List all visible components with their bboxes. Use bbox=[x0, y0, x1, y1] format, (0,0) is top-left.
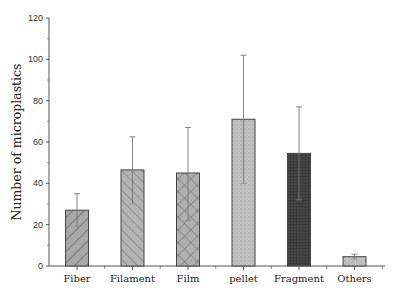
y-tick-label: 60 bbox=[33, 137, 43, 147]
x-axis: FiberFilamentFilmpelletFragmentOthers bbox=[49, 266, 385, 284]
y-tick-label: 40 bbox=[33, 178, 43, 188]
bar-others bbox=[343, 254, 366, 266]
y-tick-label: 0 bbox=[38, 261, 43, 271]
bar-fragment bbox=[288, 107, 311, 266]
y-axis: 020406080100120 bbox=[28, 13, 49, 271]
bar-film bbox=[177, 128, 200, 266]
bar-filament bbox=[121, 137, 144, 266]
x-category-label: Filament bbox=[110, 273, 155, 284]
x-category-label: Fragment bbox=[274, 273, 324, 284]
y-tick-label: 120 bbox=[28, 13, 43, 23]
bar-fiber bbox=[66, 194, 89, 266]
x-category-label: pellet bbox=[229, 273, 258, 284]
y-axis-title: Number of microplastics bbox=[9, 64, 24, 221]
x-category-label: Fiber bbox=[63, 273, 90, 284]
y-tick-label: 80 bbox=[33, 96, 43, 106]
bar-pellet bbox=[232, 55, 255, 266]
x-category-label: Film bbox=[177, 273, 200, 284]
x-category-label: Others bbox=[337, 273, 372, 284]
y-tick-label: 20 bbox=[33, 220, 43, 230]
bars bbox=[66, 55, 367, 266]
bar-chart: 020406080100120 FiberFilamentFilmpelletF… bbox=[0, 0, 395, 297]
y-tick-label: 100 bbox=[28, 54, 43, 64]
